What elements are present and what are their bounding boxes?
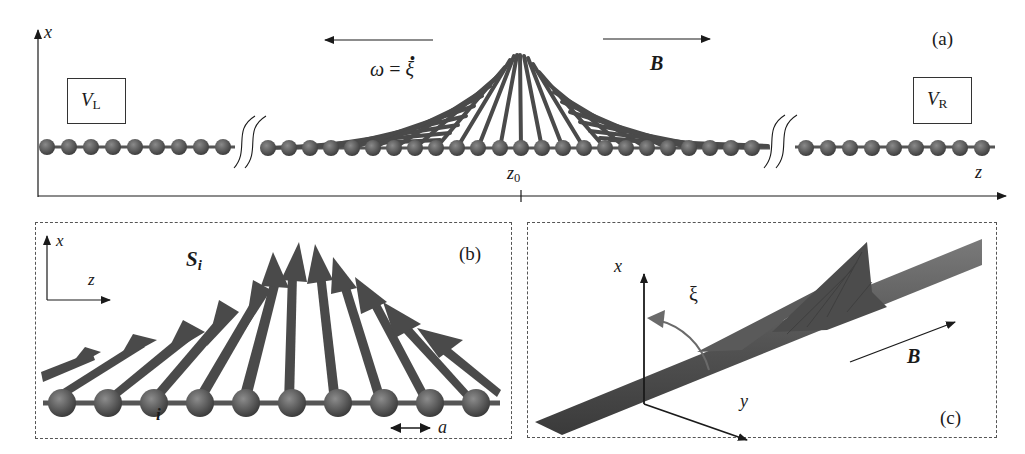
spin-chain-a: [39, 55, 995, 156]
omega-equation: ω = ξ•: [370, 58, 414, 81]
angle-xi-label: ξ: [689, 283, 698, 306]
z0-label: z0: [507, 163, 520, 186]
left-voltage-label: VL: [81, 89, 101, 113]
panel-b-graphics: [35, 222, 510, 437]
axis-y-c: [644, 404, 747, 440]
axis-z-label-a: z: [975, 162, 982, 183]
break-mark-left: [234, 116, 266, 168]
axis-x-label-c: x: [614, 256, 622, 277]
panel-tag-c: (c): [940, 407, 961, 429]
panel-b: x z Si i a (b): [35, 222, 512, 439]
right-voltage-box: VR: [913, 77, 972, 124]
axis-y-label-c: y: [740, 391, 748, 412]
equals-sign: =: [389, 58, 400, 80]
field-arrow-c: [850, 322, 955, 362]
field-label-a: B: [650, 52, 663, 75]
break-mark-right: [764, 115, 797, 168]
spin-label: Si: [186, 247, 202, 274]
xi-dot: ξ•: [405, 58, 414, 80]
axis-x-label-b: x: [56, 231, 64, 251]
lattice-spacing-arrow: [390, 423, 431, 433]
panel-tag-b: (b): [459, 243, 481, 265]
panel-a: x z z0 (a) ω = ξ• B VL VR: [0, 0, 1025, 195]
axis-z-label-b: z: [88, 270, 95, 290]
panel-tag-a: (a): [932, 28, 953, 50]
panel-c-graphics: [527, 222, 995, 436]
axis-x-label-a: x: [44, 22, 52, 43]
z0-subscript: 0: [514, 171, 520, 185]
omega-symbol: ω: [370, 58, 384, 80]
spacing-label: a: [438, 417, 447, 438]
time-derivative-dot: •: [409, 50, 415, 68]
field-label-c: B: [907, 345, 920, 368]
z0-symbol: z: [507, 163, 514, 183]
right-voltage-label: VR: [927, 88, 947, 112]
panel-c: x y ξ B (c): [527, 222, 997, 438]
left-voltage-box: VL: [67, 78, 126, 124]
site-index-label: i: [156, 405, 161, 425]
